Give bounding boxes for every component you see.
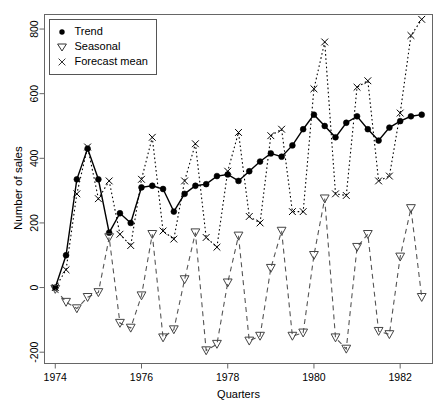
y-axis-tick-label: 200	[28, 214, 40, 232]
data-point	[364, 77, 371, 84]
data-point	[170, 236, 177, 243]
data-point	[365, 126, 371, 132]
data-point	[289, 142, 295, 148]
y-axis-title: Number of sales	[12, 146, 24, 230]
data-point	[267, 132, 274, 139]
data-point	[418, 16, 425, 23]
data-point	[278, 126, 285, 133]
data-point	[408, 113, 414, 119]
open-triangle-down-icon	[55, 40, 75, 53]
data-point	[62, 298, 71, 306]
data-point	[343, 192, 350, 199]
x-axis-tick-label: 1974	[44, 371, 68, 383]
data-point	[63, 252, 69, 258]
data-point	[257, 220, 264, 227]
series-line	[55, 115, 421, 288]
cross-x-icon	[55, 55, 75, 68]
data-point	[117, 210, 123, 216]
data-point	[419, 112, 425, 118]
data-point	[385, 331, 394, 339]
data-point	[117, 231, 124, 238]
data-point	[74, 176, 80, 182]
y-axis-tick-label: -200	[28, 342, 40, 363]
data-point	[354, 113, 360, 119]
series-seasonal	[51, 195, 426, 355]
data-point	[279, 154, 285, 160]
data-point	[376, 138, 382, 144]
x-axis-tick-label: 1978	[216, 371, 240, 383]
chart-legend: TrendSeasonalForecast mean	[49, 19, 157, 75]
data-point	[322, 123, 328, 129]
data-point	[63, 266, 70, 273]
data-point	[160, 186, 166, 192]
data-point	[300, 126, 306, 132]
data-point	[214, 173, 220, 179]
data-point	[343, 120, 349, 126]
data-point	[127, 242, 134, 249]
legend-item-forecast-mean: Forecast mean	[55, 54, 148, 69]
x-axis-tick-label: 1980	[302, 371, 326, 383]
data-point	[246, 168, 252, 174]
data-point	[408, 32, 415, 39]
data-point	[95, 176, 101, 182]
data-point	[106, 178, 113, 185]
legend-item-trend: Trend	[55, 24, 148, 39]
y-axis-tick-label: 600	[28, 85, 40, 103]
data-point	[106, 230, 112, 236]
x-axis-title: Quarters	[209, 388, 269, 400]
legend-item-label: Seasonal	[75, 40, 121, 52]
data-point	[235, 129, 242, 136]
data-point	[180, 276, 189, 284]
x-axis-tick-label: 1976	[130, 371, 154, 383]
data-point	[95, 195, 102, 202]
data-point	[321, 39, 328, 46]
data-point	[149, 183, 155, 189]
data-point	[236, 178, 242, 184]
data-point	[332, 190, 339, 197]
data-point	[257, 159, 263, 165]
data-point	[171, 209, 177, 215]
data-point	[149, 134, 156, 141]
x-axis-tick-label: 1982	[388, 371, 412, 383]
filled-circle-icon	[55, 25, 75, 38]
series-trend	[52, 112, 424, 291]
data-point	[333, 134, 339, 140]
data-point	[386, 125, 392, 131]
y-axis-tick-label: 800	[28, 20, 40, 38]
y-axis-tick-label: 400	[28, 149, 40, 167]
legend-item-label: Trend	[75, 25, 103, 37]
data-point	[246, 213, 253, 220]
data-point	[214, 244, 221, 251]
data-point	[192, 140, 199, 147]
chart-root: Number of sales Quarters -20002004006008…	[0, 0, 442, 407]
data-point	[128, 220, 134, 226]
data-point	[397, 118, 403, 124]
data-point	[300, 208, 307, 215]
legend-item-label: Forecast mean	[75, 55, 148, 67]
legend-item-seasonal: Seasonal	[55, 39, 148, 54]
data-point	[203, 181, 209, 187]
data-point	[192, 183, 198, 189]
y-axis-tick-label: 0	[28, 284, 40, 290]
series-line	[55, 199, 421, 351]
